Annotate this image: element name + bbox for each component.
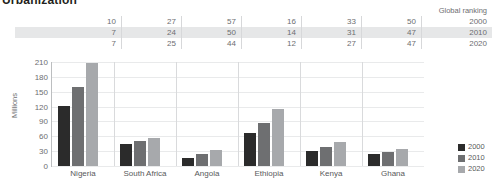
x-axis-label: Ghana [362,169,424,178]
rank-cell: 44 [182,38,242,49]
rank-cell: 57 [182,16,242,27]
gridline: 0 [52,166,424,167]
rank-cell: 25 [122,38,182,49]
bar-south-africa-2010 [134,141,146,166]
legend-swatch-icon [458,144,465,151]
bar-ghana-2000 [368,154,380,166]
legend-swatch-icon [458,155,465,162]
rank-cell: 7 [62,38,122,49]
bar-nigeria-2020 [86,63,98,166]
y-axis-tick: 60 [39,132,48,141]
y-axis-tick: 180 [35,72,48,81]
table-row: 7 25 44 12 27 47 2020 [15,38,492,49]
legend-swatch-icon [458,166,465,173]
bar-group-kenya: Kenya [300,62,362,166]
x-axis-label: Angola [176,169,238,178]
bar-group-south-africa: South Africa [114,62,176,166]
rank-cell: 50 [182,27,242,38]
global-ranking-header: Global ranking [439,6,487,15]
legend-label: 2020 [468,164,485,174]
legend-item-2000[interactable]: 2000 [458,142,485,152]
x-axis-label: Ethiopia [238,169,300,178]
bar-south-africa-2020 [148,138,160,166]
bar-angola-2000 [182,158,194,166]
bar-kenya-2000 [306,151,318,166]
bar-ethiopia-2000 [244,133,256,166]
y-axis-tick: 90 [39,117,48,126]
bar-kenya-2020 [334,142,346,166]
rank-cell: 27 [302,38,362,49]
rank-cell: 50 [362,16,422,27]
rank-cell: 24 [122,27,182,38]
table-row: 7 24 50 14 31 47 2010 [15,27,492,38]
bar-angola-2020 [210,150,222,166]
rank-cell: 16 [242,16,302,27]
rank-row-year: 2000 [422,16,492,27]
rank-cell: 47 [362,27,422,38]
rank-cell: 14 [242,27,302,38]
chart-legend: 200020102020 [458,142,485,175]
bar-group-angola: Angola [176,62,238,166]
rank-cell: 10 [62,16,122,27]
rank-row-year: 2010 [422,27,492,38]
legend-label: 2010 [468,153,485,163]
legend-item-2020[interactable]: 2020 [458,164,485,174]
rank-row-year: 2020 [422,38,492,49]
bar-ghana-2020 [396,149,408,166]
plot-area: 0306090120150180210NigeriaSouth AfricaAn… [51,62,424,167]
y-axis-title: Millions [10,76,19,136]
y-axis-tick: 30 [39,147,48,156]
bar-ethiopia-2010 [258,123,270,166]
bar-angola-2010 [196,154,208,166]
rank-cell: 33 [302,16,362,27]
bar-south-africa-2000 [120,144,132,166]
y-axis-tick: 150 [35,87,48,96]
rank-cell: 12 [242,38,302,49]
bar-nigeria-2000 [58,106,70,166]
bar-kenya-2010 [320,147,332,166]
bar-group-nigeria: Nigeria [52,62,114,166]
table-row: 10 27 57 16 33 50 2000 [15,16,492,27]
bar-group-ethiopia: Ethiopia [238,62,300,166]
y-axis-tick: 210 [35,58,48,67]
y-axis-tick: 0 [44,162,48,171]
rank-cell: 31 [302,27,362,38]
x-axis-label: Nigeria [52,169,114,178]
bar-nigeria-2010 [72,87,84,166]
legend-label: 2000 [468,142,485,152]
x-axis-label: Kenya [300,169,362,178]
x-axis-label: South Africa [114,169,176,178]
bar-group-ghana: Ghana [362,62,424,166]
bar-ghana-2010 [382,152,394,166]
rank-cell: 7 [62,27,122,38]
bar-chart: Millions 0306090120150180210NigeriaSouth… [0,54,492,193]
rank-cell: 47 [362,38,422,49]
rank-cell: 27 [122,16,182,27]
global-ranking-table: Global ranking 10 27 57 16 33 50 2000 7 … [0,6,492,54]
legend-item-2010[interactable]: 2010 [458,153,485,163]
bar-ethiopia-2020 [272,109,284,166]
y-axis-tick: 120 [35,102,48,111]
